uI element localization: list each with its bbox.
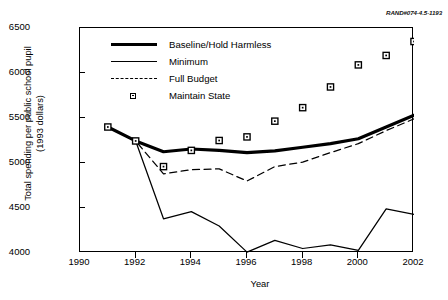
data-point-center (218, 140, 220, 142)
data-point-center (135, 140, 137, 142)
chart-legend: Baseline/Hold HarmlessMinimumFull Budget… (108, 36, 271, 104)
legend-label: Minimum (160, 56, 208, 67)
y-tick-label: 4000 (0, 246, 30, 257)
data-point-center (107, 126, 109, 128)
rand-document-id: RAND#074-4.5-1193 (386, 9, 442, 16)
data-point-center (246, 136, 248, 138)
legend-label: Maintain State (160, 90, 230, 101)
y-tick-label: 6500 (0, 21, 30, 32)
legend-label: Baseline/Hold Harmless (160, 39, 271, 50)
x-tick-label: 2002 (383, 256, 443, 267)
y-tick-label: 4500 (0, 201, 30, 212)
legend-item: Minimum (108, 53, 271, 70)
legend-thin-line-icon (111, 61, 157, 62)
data-point-center (190, 150, 192, 152)
legend-square-marker-icon (130, 93, 136, 99)
x-tick-label: 1990 (49, 256, 109, 267)
data-point-center (163, 166, 165, 168)
legend-symbol (108, 70, 160, 87)
legend-symbol (108, 36, 160, 53)
y-tick-label: 6000 (0, 66, 30, 77)
legend-item: Maintain State (108, 87, 271, 104)
legend-item: Full Budget (108, 70, 271, 87)
y-tick-label: 5500 (0, 111, 30, 122)
series-baseline-hold-harmless (108, 115, 414, 152)
series-minimum (108, 127, 414, 252)
data-point-center (274, 120, 276, 122)
x-axis-label: Year (75, 279, 445, 289)
legend-item: Baseline/Hold Harmless (108, 36, 271, 53)
legend-symbol (108, 53, 160, 70)
chart-figure: RAND#074-4.5-1193 Total spending per pub… (0, 0, 448, 300)
series-full-budget (108, 119, 414, 181)
legend-thick-line-icon (111, 43, 157, 46)
data-point-center (302, 107, 304, 109)
legend-label: Full Budget (160, 73, 218, 84)
data-point-center (357, 64, 359, 66)
data-point-center (385, 55, 387, 57)
legend-symbol (108, 87, 160, 104)
data-point-center (330, 86, 332, 88)
y-tick-label: 5000 (0, 156, 30, 167)
data-point-center (413, 41, 414, 43)
legend-dashed-line-icon (111, 78, 157, 79)
